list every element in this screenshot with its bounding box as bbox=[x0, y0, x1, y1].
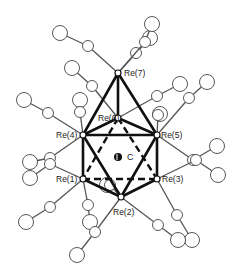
atom-label: Re(2) bbox=[113, 207, 134, 217]
oxygen-atom bbox=[17, 93, 32, 108]
oxygen-atom bbox=[65, 61, 80, 76]
carbon-atom bbox=[45, 159, 56, 170]
oxygen-atom bbox=[210, 139, 225, 154]
carbonyl-ligands bbox=[17, 17, 226, 263]
metal-metal-bonds bbox=[83, 73, 157, 197]
oxygen-atom bbox=[53, 26, 68, 41]
carbon-atom bbox=[87, 81, 98, 92]
rhenium-atom bbox=[118, 194, 124, 200]
oxygen-atom bbox=[23, 171, 38, 186]
carbon-atom bbox=[83, 200, 94, 211]
atom-label: Re(3) bbox=[162, 174, 183, 184]
m-c-bond bbox=[88, 46, 118, 73]
rhenium-atom bbox=[80, 176, 86, 182]
m-c-bond bbox=[118, 96, 157, 118]
m-c-bond bbox=[157, 179, 177, 215]
atom-label: Re(7) bbox=[124, 68, 145, 78]
atom-label: Re(1) bbox=[56, 174, 77, 184]
oxygen-atom bbox=[185, 233, 200, 248]
oxygen-atom bbox=[23, 155, 38, 170]
rhenium-atom bbox=[80, 132, 86, 138]
oxygen-atom bbox=[171, 233, 186, 248]
rhenium-atom bbox=[154, 176, 160, 182]
carbon-atom bbox=[43, 108, 54, 119]
carbide-atom bbox=[114, 153, 122, 161]
carbon-atom bbox=[90, 227, 101, 238]
oxygen-atom bbox=[70, 248, 85, 263]
molecular-structure-diagram: Re(7)Re(6)Re(4)Re(5)Re(1)Re(3)Re(2)C bbox=[0, 0, 243, 274]
oxygen-atom bbox=[73, 93, 88, 108]
carbon-atom bbox=[153, 110, 164, 121]
carbon-atom bbox=[140, 37, 151, 48]
carbon-atom bbox=[45, 202, 56, 213]
carbon-atom bbox=[172, 210, 183, 221]
oxygen-atom bbox=[200, 75, 215, 90]
oxygen-atom bbox=[173, 77, 188, 92]
carbide-label: C bbox=[127, 152, 134, 162]
carbon-atom bbox=[75, 107, 86, 118]
carbon-atom bbox=[184, 93, 195, 104]
rhenium-atom bbox=[154, 132, 160, 138]
atom-label: Re(6) bbox=[98, 113, 119, 123]
carbon-atom bbox=[152, 91, 163, 102]
oxygen-atom bbox=[211, 168, 226, 183]
oxygen-atom bbox=[145, 17, 160, 32]
carbon-atom bbox=[153, 220, 164, 231]
atom-label: Re(4) bbox=[56, 130, 77, 140]
atom-label: Re(5) bbox=[161, 130, 182, 140]
oxygen-atom bbox=[19, 215, 34, 230]
rhenium-atom bbox=[115, 70, 121, 76]
carbon-atom bbox=[83, 41, 94, 52]
carbon-atom bbox=[191, 155, 202, 166]
